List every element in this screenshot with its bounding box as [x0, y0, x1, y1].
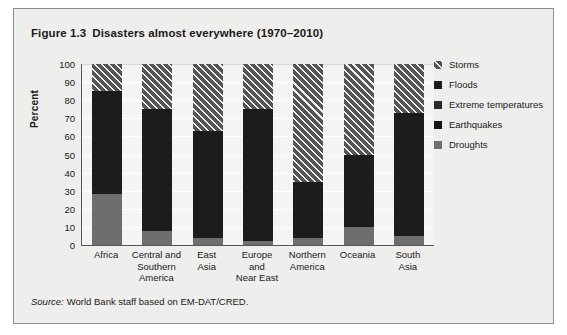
- bar-column[interactable]: [344, 64, 374, 245]
- legend-item[interactable]: Droughts: [434, 139, 549, 150]
- y-axis-ticks: 1009080706050403020100: [45, 64, 75, 245]
- bar-segment-storms: [142, 64, 172, 109]
- plot-area: [81, 64, 434, 246]
- figure-title-text: Disasters almost everywhere (1970–2010): [92, 27, 323, 39]
- x-axis-labels: AfricaCentral andSouthernAmericaEastAsia…: [81, 249, 433, 284]
- bar-segment-droughts: [193, 238, 223, 245]
- x-axis-label: EuropeandNear East: [232, 249, 282, 284]
- y-axis-title: Percent: [29, 69, 40, 149]
- bar-segment-floods: [344, 155, 374, 227]
- bar-column[interactable]: [243, 64, 273, 245]
- bar-segment-droughts: [344, 227, 374, 245]
- x-axis-label: Oceania: [332, 249, 382, 284]
- bar-segment-floods: [293, 182, 323, 238]
- legend-swatch-icon: [434, 101, 442, 109]
- bar-segment-droughts: [394, 236, 424, 245]
- legend-item-label: Extreme temperatures: [449, 99, 543, 110]
- source-note: Source:World Bank staff based on EM-DAT/…: [31, 296, 248, 307]
- bar-segment-storms: [293, 64, 323, 182]
- x-axis-label: Central andSouthernAmerica: [131, 249, 181, 284]
- y-axis-tick-label: 80: [64, 95, 75, 106]
- y-axis-tick-label: 90: [64, 77, 75, 88]
- bar-segment-droughts: [243, 241, 273, 245]
- bar-segment-floods: [394, 113, 424, 236]
- legend-item-label: Storms: [449, 59, 479, 70]
- legend-swatch-icon: [434, 121, 442, 129]
- y-axis-tick-label: 70: [64, 113, 75, 124]
- source-label: Source:: [31, 296, 64, 307]
- y-axis-tick-label: 60: [64, 131, 75, 142]
- legend-item-label: Droughts: [449, 139, 488, 150]
- bar-segment-floods: [142, 109, 172, 230]
- bar-segment-droughts: [92, 194, 122, 245]
- x-axis-label: NorthernAmerica: [282, 249, 332, 284]
- bar-segment-floods: [193, 131, 223, 238]
- legend-swatch-icon: [434, 61, 442, 69]
- y-axis-tick-label: 0: [70, 240, 75, 251]
- legend-item[interactable]: Storms: [434, 59, 549, 70]
- bar-segment-droughts: [293, 238, 323, 245]
- legend-swatch-icon: [434, 141, 442, 149]
- figure-number: Figure 1.3: [31, 27, 86, 39]
- bar-segment-storms: [243, 64, 273, 109]
- y-axis-tick-label: 50: [64, 149, 75, 160]
- bar-segment-floods: [243, 109, 273, 241]
- source-text: World Bank staff based on EM-DAT/CRED.: [67, 296, 249, 307]
- legend-item-label: Floods: [449, 79, 478, 90]
- bar-column[interactable]: [394, 64, 424, 245]
- x-axis-label: SouthAsia: [383, 249, 433, 284]
- legend-swatch-icon: [434, 81, 442, 89]
- y-axis-tick-label: 100: [59, 59, 75, 70]
- bar-column[interactable]: [193, 64, 223, 245]
- figure-card: Figure 1.3Disasters almost everywhere (1…: [13, 8, 554, 324]
- y-axis-tick-label: 40: [64, 167, 75, 178]
- bar-column[interactable]: [293, 64, 323, 245]
- chart-legend: StormsFloodsExtreme temperaturesEarthqua…: [434, 59, 549, 159]
- page-title: Figure 1.3Disasters almost everywhere (1…: [31, 27, 323, 39]
- legend-item[interactable]: Floods: [434, 79, 549, 90]
- x-axis-label: EastAsia: [182, 249, 232, 284]
- y-axis-tick-label: 10: [64, 221, 75, 232]
- bar-column[interactable]: [142, 64, 172, 245]
- bar-series-group: [82, 64, 434, 245]
- legend-item[interactable]: Extreme temperatures: [434, 99, 549, 110]
- bar-segment-droughts: [142, 231, 172, 245]
- bar-column[interactable]: [92, 64, 122, 245]
- y-axis-tick-label: 20: [64, 203, 75, 214]
- bar-segment-storms: [344, 64, 374, 155]
- legend-item-label: Earthquakes: [449, 119, 502, 130]
- bar-segment-storms: [92, 64, 122, 91]
- bar-segment-floods: [92, 91, 122, 194]
- bar-segment-storms: [193, 64, 223, 131]
- y-axis-tick-label: 30: [64, 185, 75, 196]
- x-axis-label: Africa: [81, 249, 131, 284]
- legend-item[interactable]: Earthquakes: [434, 119, 549, 130]
- bar-segment-storms: [394, 64, 424, 113]
